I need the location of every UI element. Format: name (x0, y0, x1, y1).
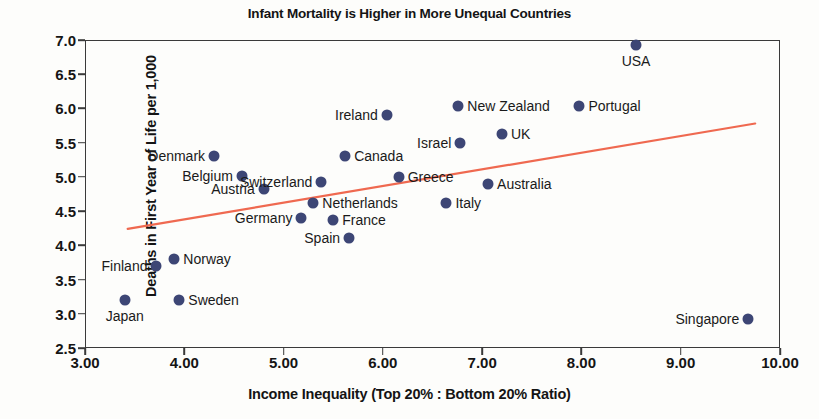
data-point (455, 137, 466, 148)
data-point-label: Portugal (588, 98, 640, 114)
y-tick-mark (78, 176, 85, 178)
y-tick-label: 3.5 (0, 271, 76, 288)
x-tick-label: 3.00 (70, 354, 99, 371)
x-tick-mark (481, 348, 483, 355)
y-tick-label: 5.5 (0, 134, 76, 151)
x-tick-mark (283, 348, 285, 355)
data-point (174, 295, 185, 306)
data-point (169, 254, 180, 265)
x-tick-label: 7.00 (468, 354, 497, 371)
data-point-label: Italy (455, 195, 481, 211)
data-point-label: Greece (408, 169, 454, 185)
x-tick-mark (382, 348, 384, 355)
x-tick-label: 10.00 (761, 354, 799, 371)
data-point-label: Finland (102, 258, 148, 274)
x-tick-label: 4.00 (170, 354, 199, 371)
y-tick-label: 4.5 (0, 203, 76, 220)
data-point (340, 151, 351, 162)
data-point (119, 295, 130, 306)
data-point (151, 260, 162, 271)
y-tick-label: 6.0 (0, 100, 76, 117)
data-point (453, 101, 464, 112)
y-tick-mark (78, 210, 85, 212)
data-point-label: USA (622, 53, 651, 69)
y-tick-mark (78, 313, 85, 315)
y-tick-label: 3.0 (0, 305, 76, 322)
y-tick-label: 4.0 (0, 237, 76, 254)
y-tick-mark (78, 142, 85, 144)
x-tick-label: 5.00 (269, 354, 298, 371)
data-point (441, 197, 452, 208)
data-point-label: New Zealand (467, 98, 550, 114)
data-point-label: Sweden (188, 292, 239, 308)
data-point-label: Germany (235, 210, 293, 226)
data-point (631, 40, 642, 51)
data-point (483, 178, 494, 189)
y-tick-label: 5.0 (0, 168, 76, 185)
y-tick-mark (78, 245, 85, 247)
data-point (381, 110, 392, 121)
data-point (574, 101, 585, 112)
data-point (393, 171, 404, 182)
x-tick-label: 8.00 (567, 354, 596, 371)
data-point-label: Singapore (675, 311, 739, 327)
scatter-chart: Infant Mortality is Higher in More Unequ… (0, 0, 819, 419)
data-point (344, 233, 355, 244)
data-point (296, 212, 307, 223)
data-point (308, 197, 319, 208)
data-point (328, 215, 339, 226)
y-tick-mark (78, 108, 85, 110)
data-point-label: Switzerland (240, 174, 312, 190)
y-tick-label: 6.5 (0, 66, 76, 83)
x-tick-label: 9.00 (666, 354, 695, 371)
data-point-label: Spain (304, 230, 340, 246)
data-point (209, 151, 220, 162)
y-tick-label: 2.5 (0, 340, 76, 357)
x-tick-mark (581, 348, 583, 355)
data-point-label: Ireland (335, 107, 378, 123)
data-point-label: Norway (183, 251, 230, 267)
x-tick-mark (779, 348, 781, 355)
y-tick-mark (78, 73, 85, 75)
x-tick-label: 6.00 (368, 354, 397, 371)
data-point-label: France (342, 212, 386, 228)
x-tick-mark (183, 348, 185, 355)
y-tick-mark (78, 279, 85, 281)
data-point-label: Netherlands (322, 195, 398, 211)
x-tick-mark (84, 348, 86, 355)
y-tick-label: 7.0 (0, 32, 76, 49)
data-point-label: UK (511, 126, 530, 142)
data-point (316, 177, 327, 188)
data-point-label: Israel (417, 135, 451, 151)
data-point-label: Australia (497, 176, 551, 192)
data-point (497, 129, 508, 140)
x-tick-mark (680, 348, 682, 355)
y-tick-mark (78, 39, 85, 41)
data-point-label: Denmark (148, 148, 205, 164)
x-axis-title: Income Inequality (Top 20% : Bottom 20% … (0, 386, 819, 402)
data-point (743, 313, 754, 324)
data-point-label: Japan (106, 308, 144, 324)
data-point-label: Canada (354, 148, 403, 164)
chart-title: Infant Mortality is Higher in More Unequ… (0, 6, 819, 21)
